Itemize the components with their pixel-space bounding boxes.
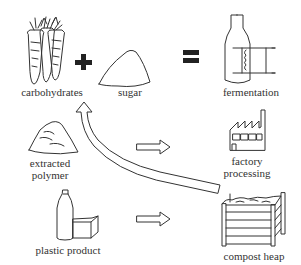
diagram-canvas: carbohydrates sugar fermentation extract… (0, 0, 301, 265)
label-factory-processing-line1: factory (222, 155, 272, 167)
label-fermentation: fermentation (216, 86, 286, 98)
label-factory-processing-line2: processing (216, 167, 278, 179)
arrow-plastic-to-compost (137, 212, 170, 226)
arrow-compost-to-carbohydrates (76, 102, 220, 193)
sugar-pile-icon (99, 50, 150, 86)
label-extracted-polymer-line2: polymer (22, 169, 78, 181)
polymer-pile-icon (29, 122, 78, 154)
label-compost-heap: compost heap (218, 250, 290, 262)
carrots-icon (27, 17, 64, 84)
label-extracted-polymer-line1: extracted (22, 157, 78, 169)
factory-icon (230, 110, 265, 150)
compost-bin-icon (222, 193, 285, 246)
label-plastic-product: plastic product (28, 244, 108, 256)
equals-operator (183, 50, 199, 63)
arrow-polymer-to-factory (137, 140, 170, 154)
label-carbohydrates: carbohydrates (12, 86, 92, 98)
plus-operator (75, 54, 92, 70)
fermentation-bottle-icon (225, 15, 275, 83)
label-sugar: sugar (110, 86, 150, 98)
bottle-and-box-icon (57, 190, 98, 240)
diagram-graphics (0, 0, 301, 265)
